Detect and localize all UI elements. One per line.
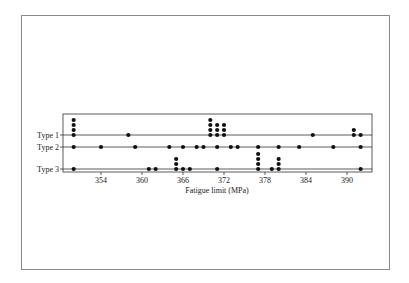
plot-area	[63, 114, 372, 172]
data-point	[72, 133, 76, 137]
x-tick-label: 366	[177, 176, 189, 185]
data-point	[222, 123, 226, 127]
data-point	[72, 123, 76, 127]
data-point	[181, 145, 185, 149]
data-point	[174, 162, 178, 166]
data-point	[72, 128, 76, 132]
data-point	[174, 167, 178, 171]
data-point	[72, 145, 76, 149]
data-point	[256, 162, 260, 166]
data-point	[352, 128, 356, 132]
data-point	[72, 118, 76, 122]
data-point	[256, 157, 260, 161]
data-point	[277, 167, 281, 171]
data-point	[277, 145, 281, 149]
x-axis-label: Fatigue limit (MPa)	[185, 186, 249, 195]
data-point	[331, 145, 335, 149]
x-tick-label: 360	[136, 176, 148, 185]
data-point	[215, 128, 219, 132]
data-point	[215, 145, 219, 149]
data-point	[72, 167, 76, 171]
data-point	[359, 145, 363, 149]
data-point	[352, 133, 356, 137]
data-point	[277, 162, 281, 166]
data-point	[256, 167, 260, 171]
data-point	[147, 167, 151, 171]
x-tick-label: 354	[95, 176, 107, 185]
data-point	[208, 128, 212, 132]
y-axis-label: Type 2	[37, 143, 59, 152]
x-tick-label: 372	[218, 176, 230, 185]
data-point	[188, 167, 192, 171]
data-point	[270, 167, 274, 171]
data-point	[215, 167, 219, 171]
y-axis-labels: Type 1Type 2Type 3	[37, 131, 59, 174]
data-point	[215, 123, 219, 127]
data-point	[208, 123, 212, 127]
data-point	[222, 128, 226, 132]
data-point	[359, 133, 363, 137]
data-point	[126, 133, 130, 137]
data-point	[277, 157, 281, 161]
dot-plot-chart: 354360366372378384390 Type 1Type 2Type 3…	[0, 0, 409, 283]
data-point	[208, 133, 212, 137]
x-tick-label: 390	[341, 176, 353, 185]
data-point	[311, 133, 315, 137]
data-point	[359, 167, 363, 171]
y-axis-label: Type 1	[37, 131, 59, 140]
x-axis-ticks: 354360366372378384390	[95, 172, 353, 185]
data-point	[208, 118, 212, 122]
data-point	[154, 167, 158, 171]
data-point	[256, 152, 260, 156]
data-point	[222, 133, 226, 137]
data-point	[99, 145, 103, 149]
data-point	[181, 167, 185, 171]
category-rows	[60, 135, 372, 169]
x-tick-label: 384	[300, 176, 312, 185]
x-tick-label: 378	[259, 176, 271, 185]
data-point	[133, 145, 137, 149]
data-point	[297, 145, 301, 149]
data-point	[256, 145, 260, 149]
data-point	[229, 145, 233, 149]
y-axis-label: Type 3	[37, 165, 59, 174]
data-point	[167, 145, 171, 149]
data-point	[201, 145, 205, 149]
data-point	[236, 145, 240, 149]
data-point	[215, 133, 219, 137]
data-points	[72, 118, 363, 171]
data-point	[174, 157, 178, 161]
data-point	[195, 145, 199, 149]
